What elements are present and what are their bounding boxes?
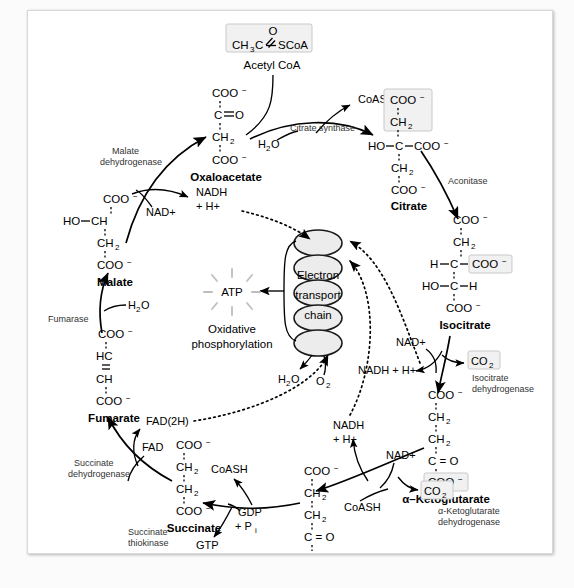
mal-l4-charge: − <box>127 258 132 267</box>
succ-line-1: COO <box>176 439 202 451</box>
citrate-line-3-right: COO <box>414 140 440 152</box>
fad2h-label: FAD(2H) <box>146 415 189 427</box>
citrate-l4-sub: 2 <box>409 168 414 177</box>
succ-line-4: COO <box>176 505 202 517</box>
enzyme-akg-dehydrogenase-l1: α-Ketoglutarate <box>438 506 500 516</box>
gdp-label-l2: + P <box>235 520 252 532</box>
oaa-line-2: C <box>214 109 222 121</box>
enzyme-succinate-thiokinase-l1: Succinate <box>128 527 168 537</box>
citrate-line-3-left: HO <box>368 140 385 152</box>
akg-line-3: CH <box>428 433 445 445</box>
fad-label: FAD <box>142 441 163 453</box>
oaa-line-4: COO <box>212 154 238 166</box>
isocit-line-3-left: H <box>430 258 438 270</box>
fum-line-4: COO <box>96 395 122 407</box>
akg-line-1: COO <box>428 389 454 401</box>
oaa-line-3: CH <box>212 131 229 143</box>
succinate-label: Succinate <box>167 522 221 534</box>
succoa-line-2: CH <box>304 487 321 499</box>
fum-line-2: HC <box>96 350 113 362</box>
succ-l3-sub: 2 <box>194 489 199 498</box>
fumarate-label: Fumarate <box>88 412 140 424</box>
tca-cycle-svg: O CH 3 C SCoA Acetyl CoA COO − C O CH 2 … <box>28 11 550 551</box>
isocit-l3-charge: − <box>502 257 507 266</box>
malate-label: Malate <box>97 276 133 288</box>
enzyme-malate-dehydrogenase-l2: dehydrogenase <box>100 157 162 167</box>
h2o-etc-label: H <box>278 373 286 385</box>
h2o-citrate-synthase-label: H <box>258 138 266 150</box>
mal-line-2-right: CH <box>91 215 108 227</box>
succoa-l2-sub: 2 <box>322 493 327 502</box>
succoa-l1-charge: − <box>334 464 339 473</box>
citrate-line-3-c: C <box>395 140 403 152</box>
citrate-l3-charge: − <box>444 139 449 148</box>
akg-l5-charge: − <box>458 475 463 484</box>
oaa-line-1: COO <box>212 87 238 99</box>
isocit-l2-sub: 2 <box>471 242 476 251</box>
citrate-line-2: CH <box>390 116 407 128</box>
diagram-canvas: O CH 3 C SCoA Acetyl CoA COO − C O CH 2 … <box>27 10 553 554</box>
succ-line-3: CH <box>176 483 193 495</box>
acetyl-coa-carbonyl-o: O <box>269 25 278 37</box>
isocit-line-1: COO <box>453 214 479 226</box>
coash-akg: CoASH <box>344 501 381 513</box>
citrate-line-4: CH <box>391 162 408 174</box>
gdp-label-l1: GDP <box>238 506 262 518</box>
succ-l2-sub: 2 <box>194 467 199 476</box>
acetyl-coa-label: Acetyl CoA <box>244 59 301 71</box>
oaa-line-3-sub: 2 <box>230 137 235 146</box>
oxphos-label-line-1: Oxidative <box>208 323 256 335</box>
isocit-line-4-right: H <box>469 280 477 292</box>
page-root: O CH 3 C SCoA Acetyl CoA COO − C O CH 2 … <box>0 0 574 588</box>
enzyme-succinate-dehydrogenase-l1: Succinate <box>74 458 114 468</box>
fum-l4-charge: − <box>126 394 131 403</box>
succoa-line-1: COO <box>304 465 330 477</box>
isocit-l5-charge: − <box>476 301 481 310</box>
acetyl-coa-carbonyl-c: C <box>255 39 263 51</box>
isocit-line-4-c: C <box>450 280 458 292</box>
succoa-line-4: C = O <box>304 531 334 543</box>
isocit-line-2: CH <box>453 236 470 248</box>
acetyl-coa-scoa: SCoA <box>278 39 308 51</box>
etc-complex-5 <box>294 330 342 356</box>
etc-complex-1 <box>294 230 342 256</box>
etc-label-line-1: Electron <box>297 269 339 281</box>
isocit-line-3-c: C <box>450 258 458 270</box>
nad-plus-malate: NAD+ <box>146 206 176 218</box>
gtp-label: GTP <box>196 539 219 551</box>
fum-line-3: CH <box>96 373 113 385</box>
enzyme-citrate-synthase: Citrate synthase <box>290 123 355 133</box>
mal-line-1: COO <box>103 193 129 205</box>
mal-l3-sub: 2 <box>115 243 120 252</box>
isocit-line-4-left: HO <box>422 280 439 292</box>
succ-l4-charge: − <box>206 504 211 513</box>
akg-l3-sub: 2 <box>446 439 451 448</box>
akg-line-4: C = O <box>428 455 458 467</box>
nadh-h-akg-l2: + H+ <box>333 433 357 445</box>
oxphos-label-line-2: phosphorylation <box>191 338 272 350</box>
h2o-etc-o: O <box>291 373 300 385</box>
mal-line-4: COO <box>97 259 123 271</box>
akg-l2-sub: 2 <box>446 417 451 426</box>
nadh-h-malate-l1: NADH <box>196 186 227 198</box>
enzyme-succinate-dehydrogenase-l2: dehydrogenase <box>68 469 130 479</box>
oaa-line-1-charge: − <box>242 86 247 95</box>
h2o-fumarase-label: H <box>128 299 136 311</box>
enzyme-isocitrate-dehydrogenase-l1: Isocitrate <box>472 373 509 383</box>
isocit-line-3-right: COO <box>472 258 498 270</box>
isocitrate-label: Isocitrate <box>439 319 490 331</box>
gdp-pi-sub: i <box>255 526 257 535</box>
co2-akg-sub: 2 <box>442 491 447 500</box>
nadh-h-akg-l1: NADH <box>333 419 364 431</box>
citrate-l1-charge: − <box>420 93 425 102</box>
isocit-line-5: COO <box>446 302 472 314</box>
citrate-label: Citrate <box>391 200 427 212</box>
fum-l1-charge: − <box>128 327 133 336</box>
succ-line-2: CH <box>176 461 193 473</box>
etc-label-line-2: transport <box>295 289 341 301</box>
oaa-line-4-charge: − <box>242 153 247 162</box>
akg-l1-charge: − <box>458 388 463 397</box>
o2-etc-sub: 2 <box>326 381 331 390</box>
coash-thiokinase: CoASH <box>211 463 248 475</box>
h2o-fum-o: O <box>141 299 150 311</box>
